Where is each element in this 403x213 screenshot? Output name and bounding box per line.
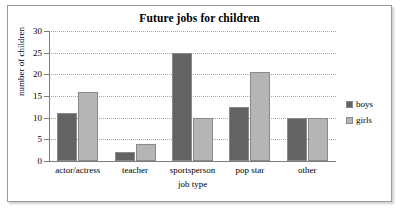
bar-boys: [172, 53, 192, 161]
x-tick-label: teacher: [106, 165, 163, 175]
x-axis-title: job type: [49, 179, 336, 189]
gridline-0: [49, 161, 336, 162]
y-tick-label-0: 0: [38, 156, 43, 166]
bar-girls: [250, 72, 270, 161]
bar-girls: [193, 118, 213, 161]
bar-group: sportsperson: [164, 31, 221, 161]
legend-label: girls: [356, 115, 372, 125]
x-tick-label: other: [279, 165, 336, 175]
y-axis-title: number of children: [16, 27, 26, 96]
bar-girls: [308, 118, 328, 161]
bar-boys: [115, 152, 135, 161]
legend-swatch-boys: [346, 101, 353, 108]
bar-group: other: [279, 31, 336, 161]
bar-group: teacher: [106, 31, 163, 161]
chart-frame: Future jobs for children number of child…: [7, 5, 392, 202]
bar-girls: [78, 92, 98, 161]
y-tick-label-20: 20: [33, 69, 42, 79]
y-tick-label-25: 25: [33, 48, 42, 58]
y-tick-label-5: 5: [38, 134, 43, 144]
bar-boys: [287, 118, 307, 161]
y-tick-0: [44, 161, 49, 162]
y-tick-label-15: 15: [33, 91, 42, 101]
x-tick-label: pop star: [221, 165, 278, 175]
legend-item-girls: girls: [346, 115, 392, 125]
chart-legend: boysgirls: [346, 99, 392, 131]
legend-label: boys: [356, 99, 373, 109]
legend-item-boys: boys: [346, 99, 392, 109]
bar-boys: [229, 107, 249, 161]
x-tick-label: sportsperson: [164, 165, 221, 175]
bar-boys: [57, 113, 77, 161]
y-tick-label-10: 10: [33, 113, 42, 123]
bar-group: pop star: [221, 31, 278, 161]
x-tick-label: actor/actress: [49, 165, 106, 175]
y-tick-label-30: 30: [33, 26, 42, 36]
bar-group: actor/actress: [49, 31, 106, 161]
legend-swatch-girls: [346, 117, 353, 124]
chart-title: Future jobs for children: [8, 12, 391, 24]
bar-girls: [136, 144, 156, 161]
plot-area: 051015202530 actor/actressteachersportsp…: [49, 31, 336, 161]
